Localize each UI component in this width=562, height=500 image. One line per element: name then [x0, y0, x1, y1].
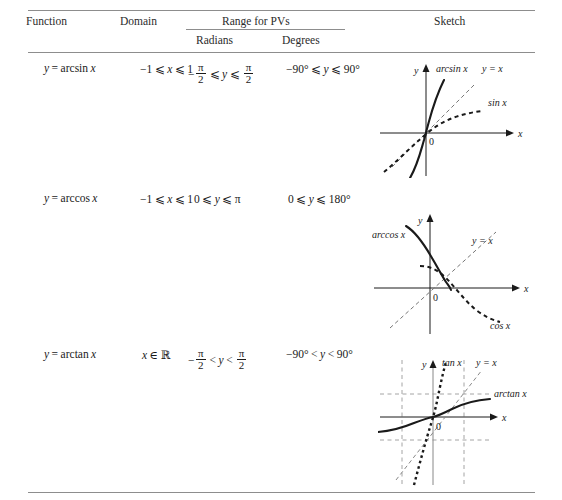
fraction-denominator: 2	[196, 360, 206, 371]
y-axis-label: y	[417, 215, 423, 226]
origin-label: 0	[436, 421, 441, 432]
column-header-range: Range for PVs	[222, 15, 290, 27]
radians-fraction-low: π2	[196, 348, 206, 372]
identity-line-label: y = x	[475, 357, 497, 368]
domain-op-2: ⩽	[172, 63, 187, 75]
radians-op-1: <	[207, 354, 219, 366]
radians-sign: −	[188, 354, 195, 366]
radians-op-2: ⩽	[220, 193, 235, 205]
range-group-span-rule	[186, 29, 345, 30]
degrees-low: 0	[288, 193, 294, 205]
x-axis-label: x	[523, 283, 529, 294]
degrees-high: 90°	[344, 63, 360, 75]
domain-value: x∈ℝ	[142, 348, 170, 362]
y-axis-arrow	[427, 214, 434, 222]
radians-op-2: ⩽	[227, 68, 242, 80]
domain-low: −1	[140, 63, 152, 75]
range-radians-value: −π2⩽y⩽π2	[188, 62, 255, 86]
column-header-function: Function	[26, 15, 67, 27]
function-equals: =	[49, 348, 61, 360]
x-axis-arrow	[512, 285, 520, 292]
function-equals: =	[49, 192, 61, 204]
y-axis-arrow	[430, 360, 437, 368]
column-header-radians: Radians	[196, 34, 233, 46]
radians-var: y	[219, 354, 224, 366]
identity-line-label: y = x	[481, 63, 503, 74]
arctan-sketch: y x 0 tan x y = x arctan x	[378, 352, 553, 491]
column-header-degrees: Degrees	[282, 34, 320, 46]
degrees-op-2: ⩽	[329, 63, 344, 75]
domain-op-2: ⩽	[172, 193, 187, 205]
degrees-high: 90°	[337, 348, 353, 360]
fraction-denominator: 2	[237, 360, 247, 371]
arcsin-sketch: y x 0 arcsin x y = x sin x	[378, 58, 538, 182]
x-axis-arrow	[490, 414, 498, 421]
table-bottom-rule	[28, 492, 535, 493]
degrees-op-2: <	[325, 348, 337, 360]
domain-op-1: ∈	[147, 349, 161, 361]
degrees-low: −90°	[286, 63, 309, 75]
arccos-sketch: y x 0 arccos x y = x cos x	[372, 196, 547, 340]
arctan-curve	[378, 399, 490, 432]
domain-low: −1	[140, 193, 152, 205]
degrees-low: −90°	[286, 348, 309, 360]
table-row: y=arctan x	[44, 348, 96, 360]
domain-set: ℝ	[161, 349, 171, 361]
identity-line	[392, 85, 474, 167]
degrees-op-1: <	[309, 348, 321, 360]
degrees-op-1: ⩽	[309, 63, 324, 75]
sin-curve-label: sin x	[488, 97, 507, 108]
function-arg: x	[92, 192, 97, 204]
radians-low: 0	[194, 193, 200, 205]
x-axis-label: x	[517, 128, 523, 139]
function-name: arctan	[61, 348, 89, 360]
domain-op-1: ⩽	[152, 63, 167, 75]
range-degrees-value: −90°⩽y⩽90°	[286, 62, 360, 76]
degrees-var: y	[324, 63, 329, 75]
radians-fraction-high: π2	[244, 62, 254, 86]
origin-label: 0	[433, 292, 438, 303]
function-arg: x	[90, 62, 95, 74]
inverse-trig-reference-table: Function Domain Range for PVs Radians De…	[0, 0, 562, 500]
column-header-domain: Domain	[120, 15, 157, 27]
x-axis-arrow	[506, 130, 514, 137]
column-header-sketch: Sketch	[434, 15, 465, 27]
table-header-rule	[28, 52, 535, 53]
fraction-denominator: 2	[196, 74, 206, 85]
radians-op-1: ⩽	[200, 193, 215, 205]
domain-value: −1⩽x⩽1	[140, 62, 193, 76]
function-name: arccos	[61, 192, 90, 204]
degrees-op-2: ⩽	[314, 193, 329, 205]
radians-fraction-low: π2	[196, 62, 206, 86]
fraction-denominator: 2	[244, 74, 254, 85]
y-axis-label: y	[421, 359, 427, 370]
range-radians-value: 0⩽y⩽π	[194, 192, 241, 206]
degrees-op-1: ⩽	[294, 193, 309, 205]
tan-curve-label: tan x	[442, 357, 462, 368]
domain-value: −1⩽x⩽1	[140, 192, 193, 206]
domain-high: 1	[187, 193, 193, 205]
identity-line-label: y = x	[471, 235, 493, 246]
table-row: y=arcsin x	[44, 62, 96, 74]
function-equals: =	[49, 62, 61, 74]
function-name: arcsin	[61, 62, 88, 74]
x-axis-label: x	[501, 412, 507, 423]
tan-curve	[414, 362, 446, 485]
radians-fraction-high: π2	[237, 348, 247, 372]
cos-curve-label: cos x	[490, 320, 511, 331]
degrees-high: 180°	[329, 193, 351, 205]
range-degrees-value: −90°<y<90°	[286, 348, 353, 360]
y-axis-label: y	[413, 65, 419, 76]
domain-op-1: ⩽	[152, 193, 167, 205]
radians-sign: −	[188, 68, 195, 80]
arcsin-curve	[410, 80, 444, 178]
radians-high: π	[235, 193, 241, 205]
radians-op-1: ⩽	[207, 68, 222, 80]
arcsin-curve-label: arcsin x	[436, 63, 468, 74]
arctan-curve-label: arctan x	[494, 388, 527, 399]
table-row: y=arccos x	[44, 192, 97, 204]
origin-label: 0	[429, 136, 434, 147]
range-degrees-value: 0⩽y⩽180°	[288, 192, 351, 206]
radians-op-2: <	[224, 354, 236, 366]
table-top-rule	[28, 10, 535, 11]
